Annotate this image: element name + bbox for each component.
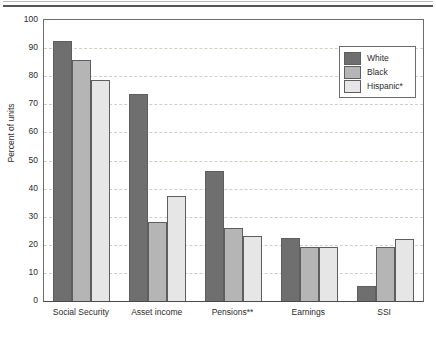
bar (357, 286, 376, 301)
bar (281, 238, 300, 301)
bar-group (120, 20, 196, 301)
bar (205, 171, 224, 301)
bar (148, 222, 167, 301)
legend-swatch-icon (344, 66, 361, 79)
bar (395, 239, 414, 301)
legend-item: White (344, 51, 411, 65)
legend-item: Black (344, 65, 411, 79)
bar-chart-figure: Percent of units 1009080706050403020100 … (0, 0, 436, 343)
legend-item: Hispanic* (344, 79, 411, 93)
x-axis-tick-label: SSI (377, 307, 391, 318)
legend-swatch-icon (344, 80, 361, 93)
bar (243, 236, 262, 301)
legend-label: White (367, 53, 389, 63)
bar (300, 247, 319, 301)
header-rule (3, 5, 433, 7)
bar-group (271, 20, 347, 301)
chart-legend: WhiteBlackHispanic* (339, 46, 416, 98)
bar (167, 196, 186, 301)
bar-group (44, 20, 120, 301)
header-rule-thin (3, 1, 433, 2)
x-axis-tick-label: Earnings (292, 307, 326, 318)
x-axis-tick-labels: Social SecurityAsset incomePensions**Ear… (43, 307, 422, 327)
bar (129, 94, 148, 301)
y-axis-tick-label: 70 (4, 99, 38, 108)
x-axis-tick-label: Pensions** (212, 307, 254, 318)
y-axis-tick-label: 60 (4, 127, 38, 136)
y-axis-tick-label: 0 (4, 296, 38, 305)
bar (91, 80, 110, 301)
y-axis-tick-label: 40 (4, 183, 38, 192)
bar (319, 247, 338, 301)
legend-swatch-icon (344, 52, 361, 65)
y-axis-tick-label: 90 (4, 43, 38, 52)
bar (376, 247, 395, 302)
legend-label: Hispanic* (367, 81, 403, 91)
y-axis-tick-label: 30 (4, 211, 38, 220)
bar-group (196, 20, 272, 301)
y-axis-tick-label: 50 (4, 155, 38, 164)
y-axis-tick-label: 10 (4, 267, 38, 276)
y-axis-tick-label: 80 (4, 71, 38, 80)
y-axis-tick-label: 20 (4, 239, 38, 248)
x-axis-tick-label: Asset income (131, 307, 182, 318)
y-axis-tick-label: 100 (4, 15, 38, 24)
x-axis-tick-label: Social Security (53, 307, 109, 318)
bar (72, 60, 91, 301)
y-axis-tick-labels: 1009080706050403020100 (0, 19, 38, 300)
bar (224, 228, 243, 301)
legend-label: Black (367, 67, 388, 77)
bar (53, 41, 72, 301)
